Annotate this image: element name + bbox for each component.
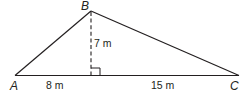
left-segment-label: 8 m bbox=[46, 79, 64, 91]
height-label: 7 m bbox=[94, 37, 112, 49]
vertex-label-a: A bbox=[9, 79, 18, 93]
right-segment-label: 15 m bbox=[151, 79, 175, 91]
vertex-label-c: C bbox=[230, 79, 239, 93]
right-angle-marker bbox=[91, 68, 100, 76]
side-bc bbox=[91, 11, 239, 76]
side-ab bbox=[15, 11, 91, 76]
triangle-diagram: B A C 7 m 8 m 15 m bbox=[0, 0, 241, 102]
vertex-label-b: B bbox=[81, 0, 89, 13]
